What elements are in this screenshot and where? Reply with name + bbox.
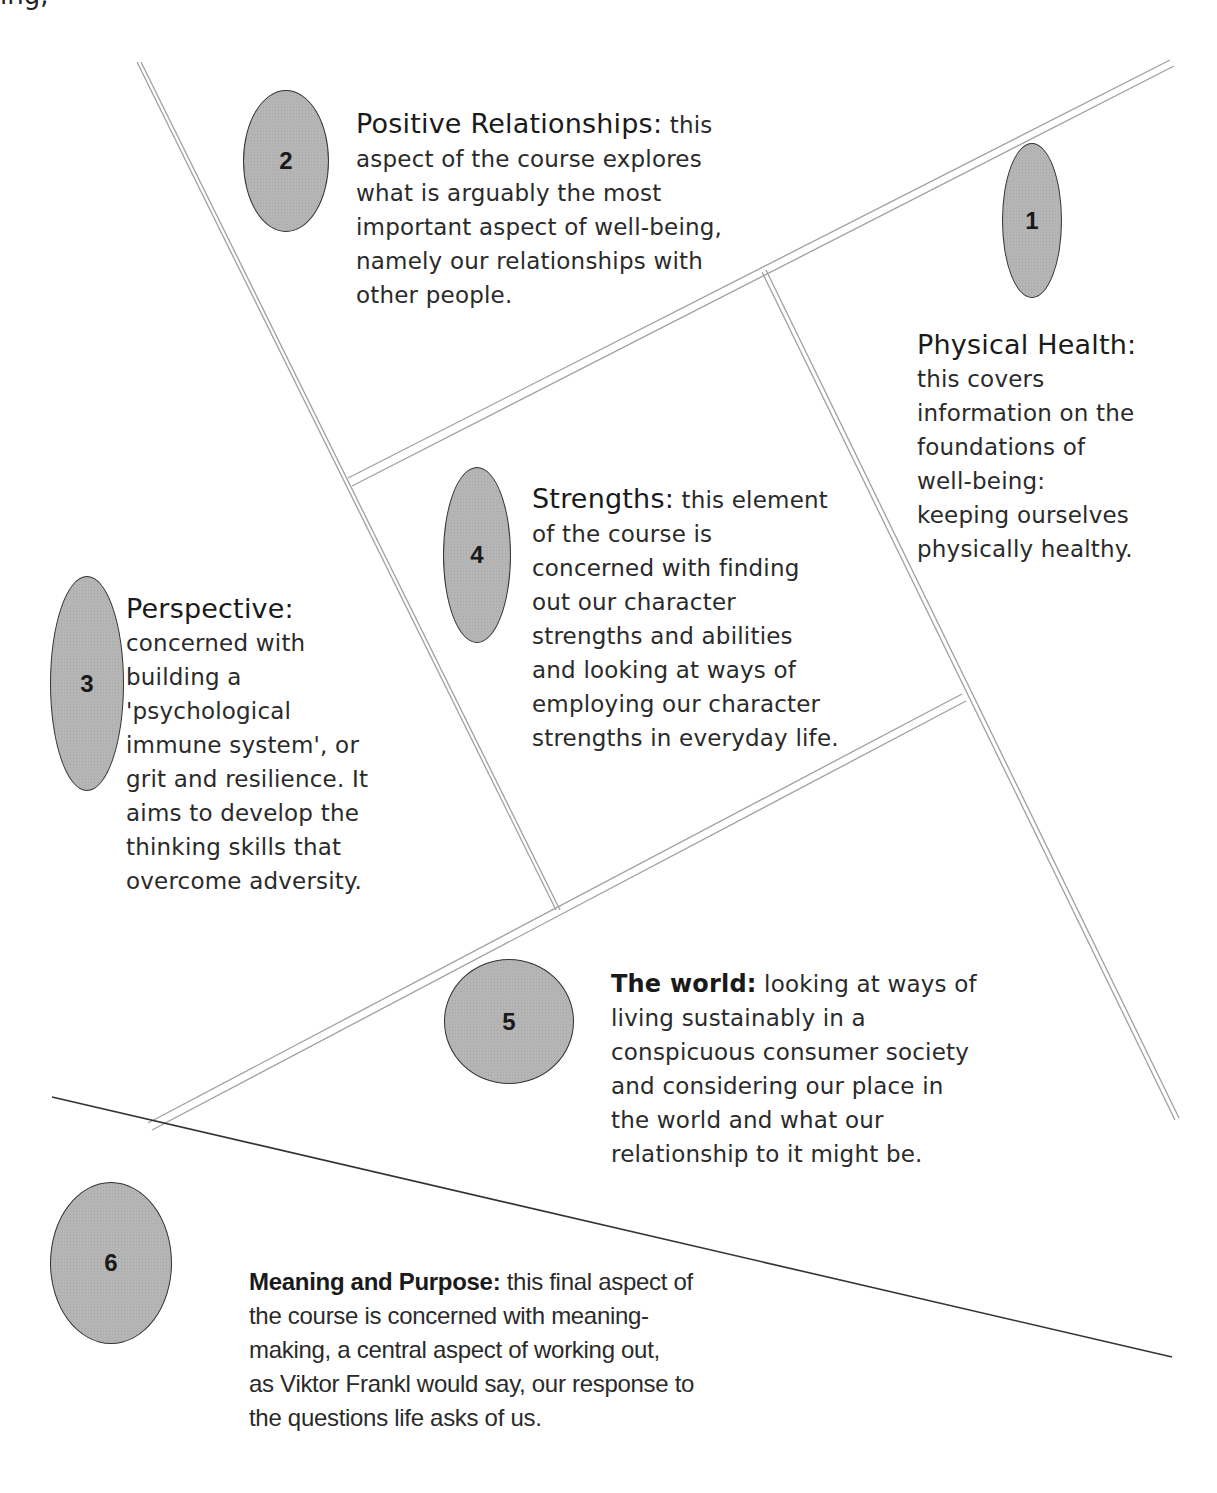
badge-2: 2 [243, 90, 329, 232]
item-text-line: this [662, 112, 712, 138]
item-text-line: conspicuous consumer society [611, 1035, 977, 1069]
item-text-line: relationship to it might be. [611, 1137, 977, 1171]
item-text-line: overcome adversity. [126, 864, 368, 898]
item-title: The world: [611, 970, 757, 998]
item-text-line: this final aspect of [500, 1268, 692, 1295]
item-text-line: the questions life asks of us. [249, 1401, 694, 1435]
item-text-line: strengths in everyday life. [532, 721, 839, 755]
item-text-line: 'psychological [126, 694, 368, 728]
item-text-line: the world and what our [611, 1103, 977, 1137]
badge-number: 3 [80, 670, 93, 698]
badge-number: 5 [502, 1008, 515, 1036]
item-title: Strengths: [532, 483, 674, 514]
item-title: Physical Health: [917, 328, 1136, 362]
item-text-line: other people. [356, 278, 722, 312]
item-text-line: building a [126, 660, 368, 694]
item-text-line: living sustainably in a [611, 1001, 977, 1035]
item-text-line: looking at ways of [757, 971, 977, 997]
item-text-line: as Viktor Frankl would say, our response… [249, 1367, 694, 1401]
item-the-world: The world: looking at ways of living sus… [611, 967, 977, 1171]
badge-1: 1 [1002, 143, 1062, 298]
item-text-line: strengths and abilities [532, 619, 839, 653]
badge-3: 3 [50, 576, 124, 791]
item-text-line: grit and resilience. It [126, 762, 368, 796]
badge-number: 1 [1025, 207, 1038, 235]
item-text-line: this covers [917, 362, 1136, 396]
item-text-line: making, a central aspect of working out, [249, 1333, 694, 1367]
item-strengths: Strengths: this element of the course is… [532, 482, 839, 755]
item-text-line: the course is concerned with meaning- [249, 1299, 694, 1333]
item-title: Meaning and Purpose: [249, 1268, 500, 1295]
item-perspective: Perspective: concerned with building a '… [126, 592, 368, 898]
item-text-line: concerned with finding [532, 551, 839, 585]
item-text-line: what is arguably the most [356, 176, 722, 210]
item-title: Perspective: [126, 592, 368, 626]
item-text-line: aims to develop the [126, 796, 368, 830]
item-text-line: important aspect of well-being, [356, 210, 722, 244]
badge-5: 5 [444, 959, 574, 1084]
item-text-line: immune system', or [126, 728, 368, 762]
badge-number: 2 [279, 147, 292, 175]
item-text-line: physically healthy. [917, 532, 1136, 566]
item-positive-relationships: Positive Relationships: this aspect of t… [356, 107, 722, 312]
badge-6: 6 [50, 1182, 172, 1344]
item-text-line: concerned with [126, 626, 368, 660]
item-text-line: this element [674, 487, 828, 513]
item-physical-health: Physical Health: this covers information… [917, 328, 1136, 566]
item-text-line: and looking at ways of [532, 653, 839, 687]
item-text-line: and considering our place in [611, 1069, 977, 1103]
item-text-line: of the course is [532, 517, 839, 551]
item-text-line: namely our relationships with [356, 244, 722, 278]
item-text-line: thinking skills that [126, 830, 368, 864]
badge-number: 4 [470, 541, 483, 569]
badge-4: 4 [443, 467, 511, 643]
badge-number: 6 [104, 1249, 117, 1277]
item-text-line: keeping ourselves [917, 498, 1136, 532]
item-text-line: aspect of the course explores [356, 142, 722, 176]
item-text-line: foundations of [917, 430, 1136, 464]
item-title: Positive Relationships: [356, 108, 662, 139]
item-text-line: out our character [532, 585, 839, 619]
item-text-line: employing our character [532, 687, 839, 721]
item-text-line: information on the [917, 396, 1136, 430]
item-text-line: well-being: [917, 464, 1136, 498]
item-meaning-and-purpose: Meaning and Purpose: this final aspect o… [249, 1265, 694, 1435]
